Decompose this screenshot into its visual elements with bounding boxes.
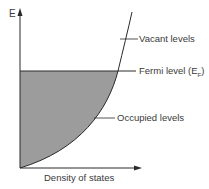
x-axis-arrow-icon	[134, 166, 142, 171]
fermi-level-label: Fermi level (EF)	[139, 66, 204, 78]
occupied-region	[20, 71, 118, 168]
y-axis-label: E	[9, 9, 16, 19]
x-axis-label: Density of states	[44, 173, 114, 183]
fermi-text: Fermi level (E	[139, 65, 198, 76]
density-of-states-diagram	[0, 0, 209, 189]
vacant-levels-label: Vacant levels	[139, 34, 195, 44]
fermi-close: )	[201, 65, 204, 76]
occupied-levels-label: Occupied levels	[117, 113, 184, 123]
y-axis-arrow-icon	[18, 8, 23, 16]
